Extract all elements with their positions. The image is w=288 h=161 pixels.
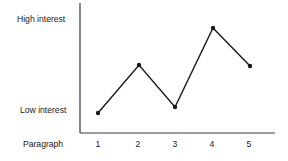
x-tick-3: 3 (169, 139, 181, 149)
line-chart: High interest Low interest Paragraph 1 2… (0, 0, 288, 161)
y-label-high: High interest (17, 14, 65, 24)
data-point-4 (211, 26, 215, 30)
x-axis-title: Paragraph (23, 139, 63, 149)
x-tick-4: 4 (206, 139, 218, 149)
x-tick-2: 2 (132, 139, 144, 149)
data-point-3 (173, 105, 177, 109)
data-markers (96, 26, 252, 115)
interest-line (98, 28, 250, 113)
data-point-1 (96, 111, 100, 115)
plot-area (0, 0, 288, 161)
x-tick-5: 5 (243, 139, 255, 149)
data-point-5 (248, 64, 252, 68)
data-point-2 (137, 63, 141, 67)
x-tick-1: 1 (92, 139, 104, 149)
y-label-low: Low interest (20, 105, 66, 115)
